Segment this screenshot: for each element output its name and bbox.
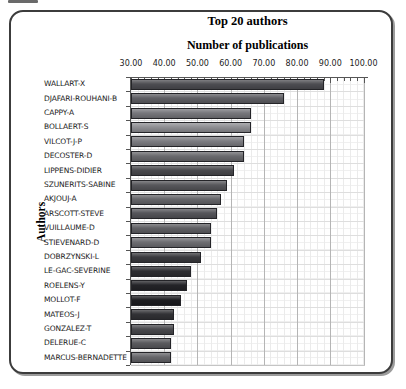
category-label: VILCOT-J-P	[44, 137, 82, 146]
y-tick	[126, 178, 130, 179]
x-tick-label: 90.00	[319, 59, 342, 68]
bar-szunerits-sabine	[131, 180, 227, 191]
category-label: DJAFARI-ROUHANI-B	[44, 94, 117, 103]
x-tick-major	[330, 78, 331, 83]
category-label: MATEOS-J	[44, 310, 80, 319]
y-axis-line	[130, 77, 131, 365]
category-label: DOBRZYNSKI-L	[44, 252, 99, 261]
x-tick-major	[364, 78, 365, 83]
x-tick-label: 30.00	[120, 59, 143, 68]
bar-arscott-steve	[131, 208, 217, 219]
category-label: DELERUE-C	[44, 338, 86, 347]
bar-bollaert-s	[131, 122, 251, 133]
x-tick-minor	[337, 78, 338, 81]
bar-stievenard-d	[131, 237, 211, 248]
category-label: MOLLOT-F	[44, 295, 80, 304]
category-label: VUILLAUME-D	[44, 223, 95, 232]
category-label: LIPPENS-DIDIER	[44, 166, 102, 175]
gridline-major	[197, 77, 198, 365]
category-label: SZUNERITS-SABINE	[44, 180, 115, 189]
x-tick-label: 100.00	[350, 59, 378, 68]
bar-vuillaume-d	[131, 223, 211, 234]
y-tick	[126, 192, 130, 193]
bar-djafari-rouhani-b	[131, 93, 284, 104]
bar-vilcot-j-p	[131, 136, 244, 147]
category-label: STIEVENARD-D	[44, 238, 99, 247]
category-label: CAPPY-A	[44, 108, 74, 117]
bar-delerue-c	[131, 338, 171, 349]
category-label: DECOSTER-D	[44, 151, 92, 160]
bar-akjouj-a	[131, 194, 221, 205]
x-tick-minor	[357, 78, 358, 81]
bar-mateos-j	[131, 309, 174, 320]
y-tick	[126, 221, 130, 222]
y-tick	[126, 365, 130, 366]
y-tick	[126, 307, 130, 308]
category-label: MARCUS-BERNADETTE	[44, 353, 127, 362]
x-tick-label: 60.00	[219, 59, 242, 68]
category-label: ARSCOTT-STEVE	[44, 209, 104, 218]
gridline-major	[264, 77, 265, 365]
bar-dobrzynski-l	[131, 252, 201, 263]
y-tick	[126, 106, 130, 107]
category-label: GONZALEZ-T	[44, 324, 91, 333]
y-tick	[126, 91, 130, 92]
bar-gonzalez-t	[131, 324, 174, 335]
category-label: ROELENS-Y	[44, 281, 85, 290]
y-tick	[126, 293, 130, 294]
y-tick	[126, 163, 130, 164]
bar-mollot-f	[131, 295, 181, 306]
category-label: BOLLAERT-S	[44, 122, 88, 131]
bar-lippens-didier	[131, 165, 234, 176]
gridline-major	[364, 77, 365, 365]
y-tick	[126, 250, 130, 251]
y-tick	[126, 77, 130, 78]
x-tick-minor	[324, 78, 325, 81]
category-label: LE-GAC-SEVERINE	[44, 266, 110, 275]
bar-marcus-bernadette	[131, 352, 171, 363]
gridline-major	[330, 77, 331, 365]
y-tick	[126, 235, 130, 236]
y-tick	[126, 207, 130, 208]
x-tick-minor	[344, 78, 345, 81]
x-tick-label: 50.00	[186, 59, 209, 68]
bar-roelens-y	[131, 280, 187, 291]
y-tick	[126, 149, 130, 150]
x-tick-minor	[350, 78, 351, 81]
y-tick	[126, 135, 130, 136]
x-tick-label: 80.00	[286, 59, 309, 68]
gridline-major	[164, 77, 165, 365]
y-tick	[126, 336, 130, 337]
category-label: WALLART-X	[44, 79, 85, 88]
gridline-major	[297, 77, 298, 365]
category-label: AKJOUJ-A	[44, 194, 76, 203]
bar-wallart-x	[131, 79, 324, 90]
y-tick	[126, 351, 130, 352]
bar-cappy-a	[131, 108, 251, 119]
bar-le-gac-severine	[131, 266, 191, 277]
x-tick-label: 70.00	[252, 59, 275, 68]
y-tick	[126, 279, 130, 280]
gridline-major	[231, 77, 232, 365]
y-tick	[126, 264, 130, 265]
bar-chart: 30.0040.0050.0060.0070.0080.0090.00100.0…	[0, 0, 406, 389]
bar-decoster-d	[131, 151, 244, 162]
y-tick	[126, 322, 130, 323]
x-tick-label: 40.00	[153, 59, 176, 68]
y-tick	[126, 120, 130, 121]
